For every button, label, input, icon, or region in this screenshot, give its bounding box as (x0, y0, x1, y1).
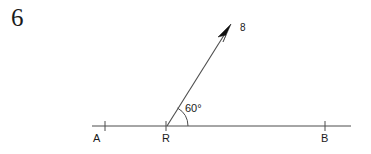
angle-diagram: A R B 60° 8 (0, 0, 371, 154)
ray-length-label: 8 (240, 22, 246, 33)
point-label-a: A (93, 132, 101, 144)
arrowhead-icon (218, 24, 231, 42)
angle-measure-label: 60° (185, 102, 202, 114)
point-label-r: R (162, 132, 170, 144)
geometry-figure: 6 A R B 60° 8 (0, 0, 371, 154)
point-label-b: B (321, 132, 328, 144)
